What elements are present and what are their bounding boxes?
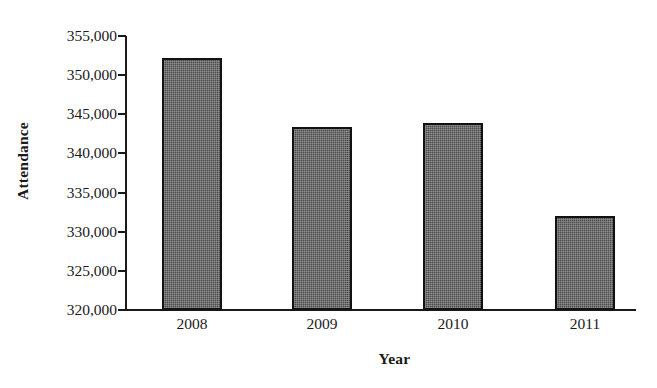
- y-axis-tick-mark: [118, 192, 126, 194]
- x-axis-tick-label: 2010: [413, 316, 493, 332]
- y-axis-tick-label: 330,000: [20, 224, 117, 240]
- y-axis-tick-mark: [118, 35, 126, 37]
- y-axis-tick-label: 340,000: [20, 146, 117, 162]
- y-axis-tick-label: 345,000: [20, 107, 117, 123]
- y-axis-tick-mark: [118, 231, 126, 233]
- plot-area: [127, 36, 636, 310]
- y-axis-tick-label: 320,000: [20, 302, 117, 318]
- bar-2010: [423, 123, 483, 310]
- bar-2011: [555, 216, 615, 310]
- bar-chart-figure: Attendance 355,000350,000345,000340,0003…: [0, 0, 657, 388]
- x-axis-title: Year: [0, 350, 657, 368]
- bar-2008: [162, 58, 222, 310]
- x-axis-tick-label: 2011: [545, 316, 625, 332]
- y-axis-tick-label: 350,000: [20, 67, 117, 83]
- y-axis-tick-mark: [118, 152, 126, 154]
- y-axis-tick-label: 335,000: [20, 185, 117, 201]
- x-axis-tick-label: 2008: [152, 316, 232, 332]
- y-axis-tick-labels: 355,000350,000345,000340,000335,000330,0…: [20, 0, 117, 388]
- y-axis-tick-mark: [118, 74, 126, 76]
- y-axis-tick-label: 325,000: [20, 263, 117, 279]
- y-axis-tick-mark: [118, 270, 126, 272]
- y-axis-tick-mark: [118, 113, 126, 115]
- y-axis-tick-label: 355,000: [20, 28, 117, 44]
- bar-2009: [292, 127, 352, 310]
- x-axis-tick-label: 2009: [282, 316, 362, 332]
- y-axis-tick-mark: [118, 309, 126, 311]
